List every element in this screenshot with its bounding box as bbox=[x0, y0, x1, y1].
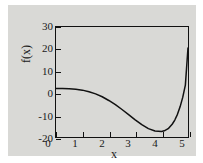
y-tick-label-10: 10 bbox=[42, 66, 53, 77]
y-tick-label-20: 20 bbox=[42, 43, 53, 54]
y-tick-label-0: 0 bbox=[48, 88, 54, 99]
figure-root: f(x) 30 20 10 0 -10 -20 0 1 2 3 4 5 x bbox=[0, 0, 203, 163]
plot-frame bbox=[55, 26, 189, 138]
y-axis-label: f(x) bbox=[20, 45, 32, 63]
x-axis-label: x bbox=[47, 148, 181, 160]
y-tick-label-neg10: -10 bbox=[38, 111, 53, 122]
function-curve-path bbox=[56, 48, 188, 132]
x-tick-5 bbox=[190, 132, 191, 137]
y-tick-label-30: 30 bbox=[42, 21, 53, 32]
y-tick-neg20 bbox=[56, 139, 61, 140]
figure-panel: f(x) 30 20 10 0 -10 -20 0 1 2 3 4 5 x bbox=[8, 5, 196, 156]
function-curve bbox=[56, 27, 188, 137]
